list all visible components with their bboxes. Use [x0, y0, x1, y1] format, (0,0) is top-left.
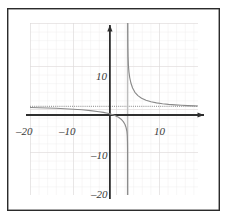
y-tick-label-neg20: –20 — [91, 189, 108, 200]
x-tick-label-pos10: 10 — [154, 126, 165, 137]
x-tick-label-neg20: –20 — [16, 126, 33, 137]
figure-frame: –20 –10 10 10 –10 –20 — [7, 8, 220, 211]
grid-region — [30, 23, 198, 195]
y-tick-label-neg10: –10 — [91, 150, 108, 161]
x-tick-label-neg10: –10 — [59, 126, 76, 137]
grid-lines — [30, 23, 198, 195]
y-tick-label-pos10: 10 — [96, 71, 107, 82]
plot-stage: –20 –10 10 10 –10 –20 — [8, 9, 221, 212]
x-axis-arrow-icon — [198, 112, 205, 117]
